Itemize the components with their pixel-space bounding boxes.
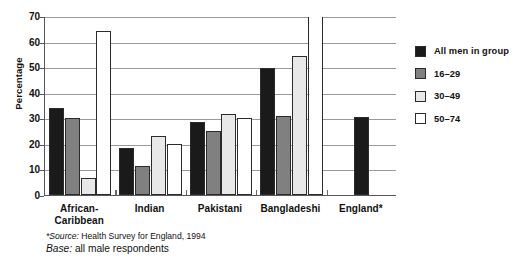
bar: [292, 56, 307, 195]
legend-label: 30–49: [434, 91, 460, 101]
x-category-label: England*: [326, 203, 396, 215]
group-separator-tick: [256, 190, 257, 196]
legend-item: 50–74: [415, 110, 509, 128]
legend-swatch: [415, 46, 426, 57]
chart-footnotes: *Source: Health Survey for England, 1994…: [46, 230, 206, 255]
x-category-label: Pakistani: [185, 203, 255, 215]
source-note-lead: *Source:: [46, 231, 79, 241]
bar: [81, 178, 96, 195]
bar: [49, 108, 64, 195]
legend-item: 30–49: [415, 87, 509, 105]
legend-swatch: [415, 113, 426, 124]
bar: [206, 131, 221, 195]
x-category-label-line2: Caribbean: [44, 215, 114, 227]
bar: [119, 148, 134, 195]
bar: [237, 118, 252, 195]
x-category-label-line1: England*: [326, 203, 396, 215]
bar: [308, 17, 323, 195]
group-separator-tick: [115, 190, 116, 196]
bar: [151, 136, 166, 195]
base-note: Base: all male respondents: [46, 242, 206, 255]
source-note-text: Health Survey for England, 1994: [79, 231, 206, 241]
legend-label: 16–29: [434, 69, 460, 79]
gridline-70: [45, 17, 396, 18]
legend-item: 16–29: [415, 65, 509, 83]
x-category-label-line1: Pakistani: [185, 203, 255, 215]
x-category-label: Bangladeshi: [255, 203, 325, 215]
x-category-label-line1: Indian: [114, 203, 184, 215]
bar: [221, 114, 236, 195]
bar: [65, 118, 80, 195]
x-category-label: African-Caribbean: [44, 203, 114, 226]
source-note: *Source: Health Survey for England, 1994: [46, 230, 206, 242]
chart-legend: All men in group16–2930–4950–74: [415, 42, 509, 132]
x-category-label: Indian: [114, 203, 184, 215]
group-separator-tick: [186, 190, 187, 196]
legend-swatch: [415, 91, 426, 102]
bar: [167, 144, 182, 195]
bar: [354, 117, 369, 195]
chart-figure: Percentage 706050403020100 African-Carib…: [0, 0, 524, 265]
bar: [135, 166, 150, 195]
group-separator-tick: [327, 190, 328, 196]
legend-label: 50–74: [434, 114, 460, 124]
y-axis-tick: [39, 196, 44, 197]
bar: [260, 68, 275, 195]
legend-item: All men in group: [415, 42, 509, 60]
base-note-text: all male respondents: [72, 243, 169, 254]
x-category-label-line1: African-: [44, 203, 114, 215]
base-note-lead: Base:: [46, 243, 72, 254]
bar: [190, 122, 205, 195]
plot-area: [44, 17, 396, 196]
y-axis-ticks: [0, 17, 44, 196]
legend-label: All men in group: [434, 46, 509, 56]
legend-swatch: [415, 68, 426, 79]
bar: [276, 116, 291, 195]
x-category-label-line1: Bangladeshi: [255, 203, 325, 215]
bar: [96, 31, 111, 195]
